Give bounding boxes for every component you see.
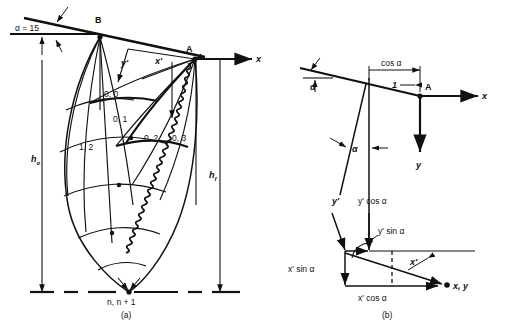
y-prime-cos-alpha-label: y' cos α <box>358 196 387 206</box>
inclined-surface-line <box>24 18 205 57</box>
x-prime-cos-alpha-label: x' cos α <box>358 293 387 303</box>
x-prime-label: x' <box>154 56 163 66</box>
alpha-label: α = 15 <box>15 23 39 33</box>
panel-a-x-axis-label: x <box>255 54 262 64</box>
grid-node-label-0-3: 0, 3 <box>172 133 186 143</box>
bottom-node-marker <box>126 289 131 294</box>
point-a-label: A <box>186 44 193 54</box>
y-prime-line <box>340 84 366 195</box>
resultant-label: x, y <box>452 281 469 291</box>
node-marker <box>110 231 114 235</box>
grid-node-label-0-0: 0, 0 <box>104 89 118 99</box>
wavy-slip-line <box>126 60 195 253</box>
panel-b-lower: y' sin α x' sin α x' x' cos α x, y (b) <box>288 213 475 320</box>
angle-leader <box>56 40 62 52</box>
y-prime-line-label: y' <box>331 196 340 206</box>
alpha-lower-left-arrow <box>330 138 346 147</box>
x-prime-label-lower: x' <box>409 257 418 267</box>
grid-node-label-1-2: 1, 2 <box>79 142 93 152</box>
caption-a: (a) <box>121 310 132 320</box>
panel-b-y-axis-label: y <box>415 160 422 170</box>
panel-b-upper: α cos α 1 A x y α y' y' cos α <box>300 58 488 240</box>
y-prime-label: y' <box>120 58 129 68</box>
inclined-line-leader <box>57 7 68 22</box>
y-prime-sin-alpha-label: y' sin α <box>378 226 404 236</box>
caption-b: (b) <box>382 310 393 320</box>
alpha-top-label: α <box>310 82 316 92</box>
bottom-node-arrows <box>118 278 140 290</box>
panel-b-inclined-line <box>300 68 420 96</box>
panel-b-point-a-label: A <box>425 82 432 92</box>
x-prime-vector <box>345 253 442 284</box>
resultant-point-marker <box>444 282 450 288</box>
x-prime-sin-alpha-label: x' sin α <box>288 264 314 274</box>
point-b-label: B <box>95 15 102 25</box>
lens-left-boundary <box>65 37 129 292</box>
unit-length-label: 1 <box>392 80 397 90</box>
figure-canvas: α = 15 B A x y' x' 0, 0 0, 1 0, 2 0, 3 1… <box>0 0 505 320</box>
node-marker <box>117 183 121 187</box>
technical-figure: α = 15 B A x y' x' 0, 0 0, 1 0, 2 0, 3 1… <box>0 0 505 320</box>
alpha-lower-label: α <box>352 144 358 154</box>
panel-a: α = 15 B A x y' x' 0, 0 0, 1 0, 2 0, 3 1… <box>10 7 262 320</box>
point-b-marker <box>97 34 102 39</box>
y-prime-sin-alpha-leader <box>366 235 378 244</box>
grid-node-label-0-1: 0, 1 <box>113 114 127 124</box>
h-initial-label: ho <box>31 154 41 166</box>
panel-b-x-axis-label: x <box>481 91 488 101</box>
grid-node-label-0-2: 0, 2 <box>144 133 158 143</box>
node-marker <box>129 136 133 140</box>
bottom-node-label: n, n + 1 <box>107 297 136 307</box>
cos-alpha-label: cos α <box>381 58 402 68</box>
y-prime-vector <box>332 213 345 250</box>
h-final-label: hf <box>209 170 218 182</box>
panel-b-inclined-leader <box>311 58 320 70</box>
